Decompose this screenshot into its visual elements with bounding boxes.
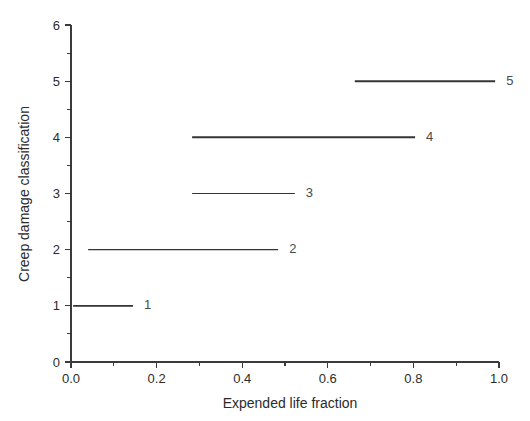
y-tick-label: 3 <box>53 186 60 201</box>
y-tick-label: 2 <box>53 242 60 257</box>
segment-label-5: 5 <box>506 73 513 88</box>
creep-damage-classification-chart: 0123456 0.00.20.40.60.81.0 12345 Expende… <box>0 0 530 421</box>
x-axis-title: Expended life fraction <box>223 395 358 411</box>
y-axis-title: Creep damage classification <box>16 106 32 282</box>
y-axis-ticks <box>65 25 71 362</box>
segment-label-4: 4 <box>426 129 433 144</box>
x-tick-label: 0.0 <box>62 371 80 386</box>
series-end-labels: 12345 <box>144 73 513 313</box>
segment-label-2: 2 <box>289 241 296 256</box>
y-tick-label: 1 <box>53 298 60 313</box>
y-tick-label: 0 <box>53 355 60 370</box>
y-axis-tick-labels: 0123456 <box>53 18 60 370</box>
chart-container: 0123456 0.00.20.40.60.81.0 12345 Expende… <box>0 0 530 421</box>
x-tick-label: 1.0 <box>490 371 508 386</box>
segment-label-1: 1 <box>144 297 151 312</box>
data-series-group <box>73 81 495 306</box>
x-tick-label: 0.8 <box>404 371 422 386</box>
x-tick-label: 0.6 <box>319 371 337 386</box>
x-tick-label: 0.4 <box>233 371 251 386</box>
x-axis-ticks <box>71 362 499 368</box>
y-tick-label: 6 <box>53 18 60 33</box>
y-tick-label: 4 <box>53 130 60 145</box>
x-axis-tick-labels: 0.00.20.40.60.81.0 <box>62 371 508 386</box>
y-tick-label: 5 <box>53 74 60 89</box>
segment-label-3: 3 <box>306 185 313 200</box>
x-tick-label: 0.2 <box>148 371 166 386</box>
